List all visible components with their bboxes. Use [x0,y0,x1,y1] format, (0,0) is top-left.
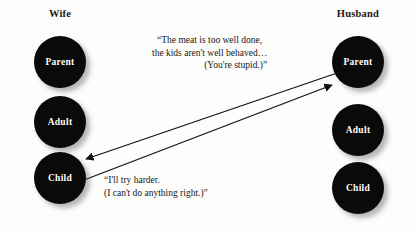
ego-state-label: Child [346,183,370,193]
ego-state-husband-adult: Adult [332,104,384,156]
quote-child-to-parent: “I'll try harder. (I can't do anything r… [104,174,208,199]
arrow-wife-child-to-husband-parent [84,85,332,180]
ego-state-wife-adult: Adult [34,96,86,148]
ego-state-wife-child: Child [34,152,86,204]
ego-state-label: Child [48,173,72,183]
transactional-analysis-diagram: Wife Husband Parent Adult Child Parent A… [0,0,419,230]
quote-line: “The meat is too well done, [152,34,267,47]
ego-state-label: Parent [45,57,74,67]
quote-parent-to-child: “The meat is too well done, the kids are… [152,34,267,72]
quote-line: (I can't do anything right.)” [104,187,208,200]
ego-state-husband-child: Child [332,162,384,214]
quote-line: the kids aren't well behaved… [152,47,267,60]
quote-line: “I'll try harder. [104,174,208,187]
ego-state-wife-parent: Parent [34,36,86,88]
arrow-husband-parent-to-wife-child [86,72,340,159]
ego-state-husband-parent: Parent [332,36,384,88]
quote-line: (You're stupid.)” [152,59,267,72]
ego-state-label: Adult [48,117,73,127]
ego-state-label: Adult [346,125,371,135]
ego-state-label: Parent [343,57,372,67]
